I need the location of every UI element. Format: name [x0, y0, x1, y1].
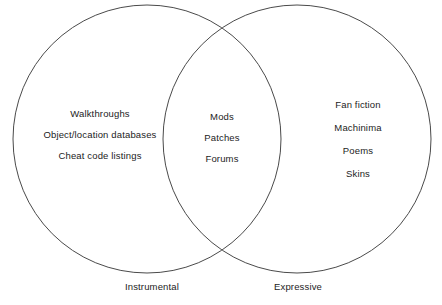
zone-item: Cheat code listings	[18, 145, 182, 166]
set-label-expressive: Expressive	[250, 281, 346, 292]
zone-item: Patches	[188, 127, 256, 148]
zone-item: Poems	[305, 139, 411, 162]
set-label-instrumental: Instrumental	[102, 281, 202, 292]
zone-intersection: Mods Patches Forums	[188, 106, 256, 169]
zone-item: Object/location databases	[18, 124, 182, 145]
zone-item: Mods	[188, 106, 256, 127]
zone-item: Skins	[305, 162, 411, 185]
zone-instrumental-only: Walkthroughs Object/location databases C…	[18, 103, 182, 166]
venn-text-layer: Walkthroughs Object/location databases C…	[0, 0, 442, 305]
zone-expressive-only: Fan fiction Machinima Poems Skins	[305, 93, 411, 185]
zone-item: Forums	[188, 148, 256, 169]
zone-item: Fan fiction	[305, 93, 411, 116]
zone-item: Machinima	[305, 116, 411, 139]
zone-item: Walkthroughs	[18, 103, 182, 124]
venn-diagram-canvas: Walkthroughs Object/location databases C…	[0, 0, 442, 305]
